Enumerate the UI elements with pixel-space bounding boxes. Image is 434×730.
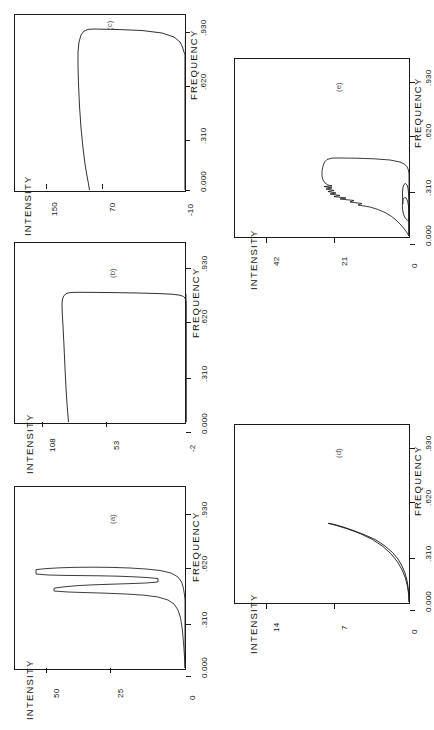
panel-e-curve xyxy=(228,52,424,252)
panel-c-ytick-mark-2 xyxy=(46,184,47,189)
panel-d-xtick-1: .310 xyxy=(424,546,433,562)
panel-b-ytick-mark-1 xyxy=(106,422,107,427)
panel-b-ytick-1: 53 xyxy=(112,441,121,450)
panel-d-curve xyxy=(228,418,424,618)
panel-b-curve xyxy=(2,236,198,441)
panel-d-yaxis-label: INTENSITY xyxy=(248,594,259,654)
panel-e-xtick-mark-1 xyxy=(410,192,415,193)
panel-b-xtick-mark-0 xyxy=(186,432,191,433)
panel-b-xtick-3: .930 xyxy=(200,256,209,272)
panel-e-xtick-3: .930 xyxy=(424,70,433,86)
panel-a xyxy=(2,482,198,687)
panel-a-xtick-mark-1 xyxy=(186,624,191,625)
panel-e-ytick-0: 0 xyxy=(410,263,419,268)
panel-c-ytick-2: 150 xyxy=(50,202,59,216)
panel-b-ytick-mark-2 xyxy=(42,422,43,427)
panel-d-ytick-mark-1 xyxy=(334,604,335,609)
panel-e-ytick-mark-1 xyxy=(334,238,335,243)
panel-b-xtick-1: .310 xyxy=(200,366,209,382)
panel-d-label: (d) xyxy=(334,448,343,458)
panel-e-xtick-mark-2 xyxy=(410,136,415,137)
panel-e-xtick-0: 0.000 xyxy=(424,225,433,246)
panel-e-ytick-2: 42 xyxy=(272,257,281,266)
panel-a-xtick-1: .310 xyxy=(200,612,209,628)
panel-b-xtick-0: 0.000 xyxy=(200,413,209,434)
panel-a-xtick-3: .930 xyxy=(200,502,209,518)
panel-b-yaxis-label: INTENSITY xyxy=(24,414,35,474)
panel-e-xtick-mark-0 xyxy=(410,244,415,245)
panel-b-ytick-0: -2 xyxy=(188,444,197,452)
panel-b-xtick-2: .620 xyxy=(200,310,209,326)
panel-c-xtick-mark-2 xyxy=(185,86,190,87)
panel-d-ytick-mark-2 xyxy=(266,604,267,609)
panel-e-xtick-1: .310 xyxy=(424,180,433,196)
panel-a-label: (a) xyxy=(108,514,117,524)
panel-c-yaxis-label: INTENSITY xyxy=(22,176,33,236)
figure-page: FREQUENCY INTENSITY 0.000 .310 .620 .930… xyxy=(0,0,434,730)
panel-d-xtick-mark-3 xyxy=(410,448,415,449)
panel-c-xtick-1: .310 xyxy=(199,128,208,144)
panel-c-xtick-mark-0 xyxy=(185,190,190,191)
panel-d-ytick-1: 7 xyxy=(340,625,349,630)
panel-c-ytick-mark-1 xyxy=(102,184,103,189)
panel-a-xtick-0: 0.000 xyxy=(200,657,209,678)
panel-c-xtick-mark-3 xyxy=(185,32,190,33)
panel-e-yaxis-label: INTENSITY xyxy=(248,230,259,290)
panel-c-label: (c) xyxy=(105,21,114,30)
panel-e-xaxis-label: FREQUENCY xyxy=(412,78,423,148)
panel-c-xtick-3: .930 xyxy=(199,20,208,36)
panel-d-xtick-3: .930 xyxy=(424,436,433,452)
panel-b-xaxis-label: FREQUENCY xyxy=(190,268,201,338)
panel-a-ytick-0: 0 xyxy=(188,695,197,700)
panel-a-xtick-mark-3 xyxy=(186,514,191,515)
panel-c-ytick-1: 70 xyxy=(108,203,117,212)
panel-b-xtick-mark-3 xyxy=(186,268,191,269)
panel-b-xtick-mark-2 xyxy=(186,322,191,323)
panel-e-label: (e) xyxy=(334,82,343,92)
panel-d-xtick-mark-0 xyxy=(410,610,415,611)
panel-d-xtick-2: .620 xyxy=(424,490,433,506)
panel-a-ytick-mark-2 xyxy=(46,668,47,673)
panel-c-xtick-mark-1 xyxy=(185,140,190,141)
panel-a-xtick-2: .620 xyxy=(200,556,209,572)
panel-c-xtick-0: 0.000 xyxy=(199,171,208,192)
panel-c-xaxis-label: FREQUENCY xyxy=(188,30,199,100)
panel-e-ytick-mark-2 xyxy=(266,238,267,243)
panel-b-ytick-2: 108 xyxy=(48,438,57,452)
panel-d-xaxis-label: FREQUENCY xyxy=(412,446,423,516)
panel-e xyxy=(228,52,424,252)
panel-d-xtick-mark-2 xyxy=(410,502,415,503)
panel-d-xtick-mark-1 xyxy=(410,558,415,559)
panel-a-yaxis-label: INTENSITY xyxy=(24,660,35,720)
panel-c-xtick-2: .620 xyxy=(199,74,208,90)
panel-d-xtick-0: 0.000 xyxy=(424,591,433,612)
panel-e-ytick-1: 21 xyxy=(340,257,349,266)
panel-a-ytick-2: 50 xyxy=(52,689,61,698)
panel-b-xtick-mark-1 xyxy=(186,378,191,379)
panel-d-ytick-2: 14 xyxy=(272,623,281,632)
panel-b xyxy=(2,236,198,441)
panel-a-xtick-mark-0 xyxy=(186,676,191,677)
panel-d-ytick-0: 0 xyxy=(410,629,419,634)
panel-d xyxy=(228,418,424,618)
panel-b-label: (b) xyxy=(108,268,117,278)
panel-a-ytick-mark-1 xyxy=(110,668,111,673)
panel-a-curve xyxy=(2,482,198,687)
panel-e-xtick-2: .620 xyxy=(424,124,433,140)
panel-a-ytick-1: 25 xyxy=(116,689,125,698)
panel-a-xtick-mark-2 xyxy=(186,568,191,569)
panel-e-xtick-mark-3 xyxy=(410,82,415,83)
panel-c-ytick-0: -10 xyxy=(186,204,195,216)
